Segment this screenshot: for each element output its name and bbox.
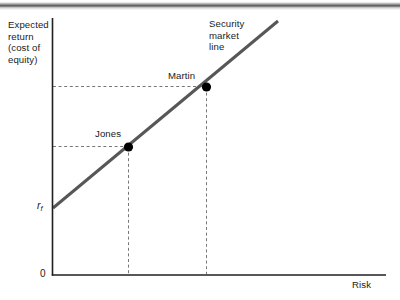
rf-subscript: f	[41, 204, 43, 213]
y-axis-title: Expected return (cost of equity)	[8, 19, 54, 65]
security-market-line-figure: Expected return (cost of equity) Risk 0 …	[0, 0, 400, 300]
security-market-line-label: Security market line	[209, 18, 283, 53]
data-point-jones	[124, 142, 133, 151]
data-point-label-martin: Martin	[168, 70, 195, 82]
plot-area	[0, 0, 400, 300]
risk-free-rate-label: rf	[37, 200, 43, 215]
origin-tick-label: 0	[40, 268, 46, 280]
data-point-martin	[202, 82, 211, 91]
data-point-label-jones: Jones	[95, 128, 121, 140]
x-axis-title: Risk	[352, 279, 371, 291]
